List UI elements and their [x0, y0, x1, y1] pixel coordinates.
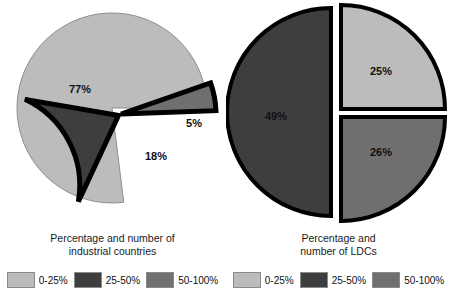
legend-swatch-icon-0-25: [233, 272, 261, 288]
legend-swatch-icon-25-50: [74, 272, 102, 288]
legend-swatch-icon-50-100: [372, 272, 400, 288]
legend-label-0-25: 0-25%: [265, 275, 294, 286]
panel-industrial-countries: 77% 18% 5% Percentage and number of indu…: [0, 0, 225, 304]
legend-label-25-50: 25-50%: [106, 275, 140, 286]
caption-line-2: industrial countries: [0, 245, 225, 258]
panel-ldcs: 25% 49% 26% Percentage and number of LDC…: [226, 0, 451, 304]
legend-swatch-icon-25-50: [300, 272, 328, 288]
slice-value-label-50-100: 5%: [186, 117, 202, 129]
pie-svg-ldcs: 25% 49% 26%: [226, 0, 451, 225]
pie-svg-industrial-countries: 77% 18% 5%: [0, 0, 225, 225]
slice-value-label-50-100: 26%: [370, 146, 392, 158]
legend-swatch-icon-0-25: [7, 272, 35, 288]
legend-item-25-50[interactable]: 25-50%: [300, 272, 366, 288]
legend-swatch-icon-50-100: [146, 272, 174, 288]
caption-line-2: number of LDCs: [226, 245, 451, 258]
legend-label-25-50: 25-50%: [332, 275, 366, 286]
two-pie-chart-figure: 77% 18% 5% Percentage and number of indu…: [0, 0, 451, 304]
slice-value-label-25-50: 49%: [265, 110, 287, 122]
legend-ldcs: 0-25% 25-50% 50-100%: [226, 272, 451, 288]
legend-item-50-100[interactable]: 50-100%: [372, 272, 444, 288]
legend-item-25-50[interactable]: 25-50%: [74, 272, 140, 288]
legend-item-50-100[interactable]: 50-100%: [146, 272, 218, 288]
caption-industrial-countries: Percentage and number of industrial coun…: [0, 232, 225, 258]
caption-line-1: Percentage and: [226, 232, 451, 245]
pie-slice-50-100-percent: [341, 117, 445, 221]
legend-label-50-100: 50-100%: [178, 275, 218, 286]
slice-value-label-0-25: 25%: [370, 65, 392, 77]
legend-item-0-25[interactable]: 0-25%: [233, 272, 294, 288]
slice-value-label-0-25: 77%: [69, 83, 91, 95]
pie-chart-ldcs: 25% 49% 26%: [226, 0, 451, 225]
slice-value-label-25-50: 18%: [145, 150, 167, 162]
pie-slice-0-25-percent: [341, 5, 445, 109]
caption-line-1: Percentage and number of: [0, 232, 225, 245]
pie-chart-industrial-countries: 77% 18% 5%: [0, 0, 225, 225]
caption-ldcs: Percentage and number of LDCs: [226, 232, 451, 258]
legend-label-0-25: 0-25%: [39, 275, 68, 286]
legend-item-0-25[interactable]: 0-25%: [7, 272, 68, 288]
legend-label-50-100: 50-100%: [404, 275, 444, 286]
legend-industrial-countries: 0-25% 25-50% 50-100%: [0, 272, 225, 288]
